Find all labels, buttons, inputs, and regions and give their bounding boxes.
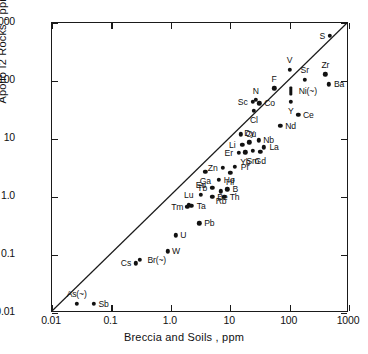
data-point-label-Th: Th [230,192,240,202]
x-axis-title: Breccia and Soils , ppm [0,331,368,343]
data-point-Cu [238,132,242,136]
x-tick-100 [290,305,291,311]
y-tick-label-0.01: 0.01 [0,305,15,317]
data-point-Ho [217,177,221,181]
data-point-Y [289,99,293,103]
y-tick-right-1000 [341,23,347,24]
data-point-Nd [278,123,282,127]
x-tick-label-0.1: 0.1 [80,314,140,326]
data-point-label-Ta: Ta [197,201,206,211]
data-point-label-Sr: Sr [301,65,309,75]
data-point-label-Cl: Cl [250,115,258,125]
y-tick-right-0.1 [341,255,347,256]
data-point-Ce [296,113,300,117]
data-point-Br [138,258,142,262]
x-tick-1.0 [171,305,172,311]
x-tick-label-1000: 1000 [318,314,368,326]
data-point-label-Sb: Sb [99,299,109,309]
data-point-label-F: F [272,74,277,84]
data-point-label-Br: Br(~) [147,255,166,265]
data-point-label-Tm: Tm [171,202,183,212]
x-tick-0.01 [52,305,53,311]
x-tick-label-10: 10 [199,314,259,326]
x-tick-top-1000 [349,23,350,29]
data-point-La [262,145,266,149]
x-tick-top-1.0 [171,23,172,29]
data-point-Pr [233,165,237,169]
y-tick-label-1000: 1000 [0,15,15,27]
plot-area: SVZrSrBaFNi(~)NScCoYClCeNdCuNbDyLiLaSmGd… [51,22,348,312]
data-point-label-Ce: Ce [303,110,314,120]
data-point-Eu [199,192,203,196]
data-point-Tb [210,185,214,189]
data-point-Cl [252,108,256,112]
data-point-Ba [327,82,331,86]
data-point-As [74,301,78,305]
x-tick-top-10 [230,23,231,29]
data-point-label-Sc: Sc [238,97,248,107]
x-tick-top-0.1 [111,23,112,29]
y-tick-1.0 [52,197,58,198]
data-point-Sb [91,301,95,305]
data-point-label-Ho: Ho [224,175,235,185]
y-tick-label-100: 100 [0,73,15,85]
data-point-label-Lu: Lu [184,190,193,200]
data-point-Sm [251,149,255,153]
x-tick-top-0.01 [52,23,53,29]
data-point-label-Zr: Zr [321,60,329,70]
data-point-label-N: N [253,86,259,96]
data-point-Gd [258,150,262,154]
x-tick-0.1 [111,305,112,311]
y-tick-label-0.1: 0.1 [0,247,15,259]
data-point-label-Gd: Gd [255,156,266,166]
data-point-label-Pb: Pb [204,218,214,228]
data-point-Be [210,195,214,199]
y-tick-10 [52,139,58,140]
y-tick-0.1 [52,255,58,256]
data-point-label-Zn: Zn [208,163,218,173]
x-tick-label-0.01: 0.01 [21,314,81,326]
data-point-Er [237,151,241,155]
data-point-Nb [256,138,260,142]
x-tick-label-100: 100 [259,314,319,326]
y-tick-label-1.0: 1.0 [0,189,15,201]
data-point-Pb [197,221,201,225]
data-point-Zr [323,72,327,76]
data-point-Co [257,101,261,105]
data-point-Ga [203,170,207,174]
data-point-F [272,86,276,90]
data-point-label-Nd: Nd [285,121,296,131]
data-point-label-Dy: Dy [244,128,254,138]
data-point-label-La: La [269,142,278,152]
x-tick-10 [230,305,231,311]
data-point-Tm [185,205,189,209]
data-point-Dy [247,140,251,144]
data-point-label-Y: Y [288,106,294,116]
data-point-Sc [251,99,255,103]
y-tick-right-10 [341,139,347,140]
data-point-S [328,34,332,38]
x-tick-top-100 [290,23,291,29]
data-point-Zn [221,165,225,169]
x-tick-label-1.0: 1.0 [140,314,200,326]
data-point-Li [240,143,244,147]
data-point-label-Pr: Pr [241,162,249,172]
data-point-W [166,249,170,253]
data-point-label-V: V [287,55,293,65]
data-point-V [287,68,291,72]
trace-elements-scatter-figure: Apollo I2 Rocks vs Breccia and Soils Tra… [0,0,368,354]
data-point-Sr [303,78,307,82]
data-point-label-As: As(~) [67,289,87,299]
data-point-label-S: S [319,31,325,41]
data-point-U [173,233,177,237]
data-point-label-Ba: Ba [334,79,344,89]
data-point-label-Eu: Eu [196,180,206,190]
data-point-label-Ni: Ni(~) [299,86,317,96]
data-point-label-U: U [180,230,186,240]
data-point-B [225,187,229,191]
y-tick-100 [52,81,58,82]
data-point-label-Er: Er [225,148,233,158]
data-point-Ni [289,87,292,96]
data-point-Yb [243,150,247,154]
data-point-label-W: W [172,246,180,256]
